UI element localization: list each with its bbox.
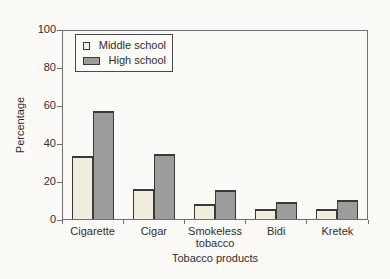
bar-middle-school-kretek <box>316 209 337 219</box>
bar-high-school-cigar <box>154 154 175 219</box>
plot-area: Middle school High school <box>62 30 368 220</box>
legend: Middle school High school <box>75 34 173 72</box>
bar-high-school-smokeless-tobacco <box>215 190 236 219</box>
legend-label: High school <box>109 54 166 67</box>
x-tick-mark <box>245 220 246 224</box>
x-tick-mark <box>306 220 307 224</box>
category-label-kretek: Kretek <box>302 225 372 237</box>
y-tick-label: 80 <box>22 61 56 74</box>
bar-middle-school-bidi <box>255 209 276 219</box>
y-tick-label: 60 <box>22 99 56 112</box>
bar-high-school-cigarette <box>93 111 114 219</box>
x-axis-title: Tobacco products <box>115 252 315 264</box>
category-label-cigarette: Cigarette <box>58 225 128 237</box>
category-label-smokeless-tobacco: Smokeless tobacco <box>180 225 250 249</box>
legend-label: Middle school <box>99 39 166 52</box>
legend-item-middle-school: Middle school <box>83 39 166 52</box>
y-tick-label: 40 <box>22 137 56 150</box>
bar-middle-school-cigarette <box>72 156 93 219</box>
bar-middle-school-cigar <box>133 189 154 219</box>
category-label-cigar: Cigar <box>119 225 189 237</box>
y-tick-mark <box>57 30 62 31</box>
y-tick-label: 100 <box>22 23 56 36</box>
y-tick-mark <box>57 106 62 107</box>
legend-swatch-middle-school <box>83 42 90 50</box>
x-tick-mark <box>62 220 63 224</box>
legend-swatch-high-school <box>83 57 100 65</box>
y-axis-title: Percentage <box>14 79 26 171</box>
category-label-bidi: Bidi <box>241 225 311 237</box>
x-tick-mark <box>368 220 369 224</box>
x-tick-mark <box>123 220 124 224</box>
y-tick-mark <box>57 182 62 183</box>
bar-high-school-bidi <box>276 202 297 219</box>
y-tick-mark <box>57 68 62 69</box>
bar-middle-school-smokeless-tobacco <box>194 204 215 219</box>
y-tick-label: 0 <box>22 213 56 226</box>
x-tick-mark <box>184 220 185 224</box>
y-tick-label: 20 <box>22 175 56 188</box>
figure: Percentage Middle school High school Tob… <box>0 0 390 279</box>
legend-item-high-school: High school <box>83 54 166 67</box>
y-tick-mark <box>57 144 62 145</box>
bar-high-school-kretek <box>337 200 358 219</box>
